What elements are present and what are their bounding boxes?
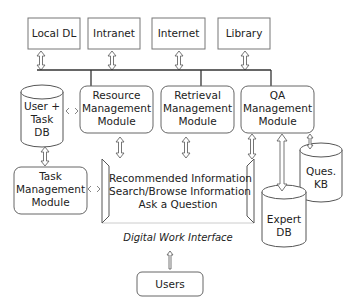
- ques-kb-label: Ques. KB: [300, 165, 342, 191]
- resource-interface-arrow: [116, 137, 124, 158]
- interface-caption: Digital Work Interface: [102, 231, 254, 244]
- db-task-arrow: [41, 147, 49, 166]
- qa-interface-arrow: [248, 134, 256, 159]
- interface-item-search-browse: Search/Browse Information: [109, 185, 247, 198]
- interface-item-ask: Ask a Question: [109, 198, 247, 211]
- retrieval-module-label: Retrieval Management Module: [161, 89, 234, 128]
- qa-expert-arrow: [277, 134, 287, 191]
- retrieval-interface-arrow: [182, 137, 190, 158]
- interface-items: Recommended Information Search/Browse In…: [109, 172, 247, 211]
- library-label: Library: [218, 27, 270, 40]
- diagram-canvas: [0, 0, 357, 308]
- local-dl-label: Local DL: [28, 27, 80, 40]
- resource-module-label: Resource Management Module: [80, 89, 153, 128]
- intranet-label: Intranet: [88, 27, 140, 40]
- expert-db-label: Expert DB: [262, 213, 306, 239]
- internet-label: Internet: [152, 27, 205, 40]
- user-task-db-label: User + Task DB: [21, 100, 63, 139]
- users-label: Users: [137, 278, 203, 291]
- task-module-label: Task Management Module: [14, 170, 87, 209]
- qa-module-label: QA Management Module: [241, 89, 314, 128]
- users-interface-arrow: [167, 251, 173, 269]
- interface-item-recommended: Recommended Information: [109, 172, 247, 185]
- qa-queskb-arrow: [307, 134, 313, 149]
- source-bus-arrows: [37, 51, 249, 70]
